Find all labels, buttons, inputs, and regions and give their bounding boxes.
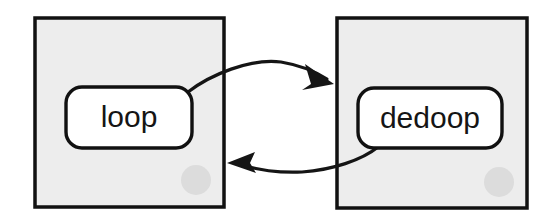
diagram-svg: loop dedoop [0, 0, 549, 224]
node-dedoop-label: dedoop [380, 101, 480, 134]
node-loop[interactable]: loop [66, 87, 192, 148]
node-loop-label: loop [101, 100, 158, 133]
edge-loop-to-dedoop-arrowhead-icon [302, 64, 334, 90]
diagram-canvas: loop dedoop [0, 0, 549, 224]
edge-dedoop-to-loop-arrowhead-icon [227, 152, 256, 173]
loop-container-badge-icon [181, 165, 211, 195]
dedoop-container-badge-icon [484, 167, 514, 197]
node-dedoop[interactable]: dedoop [358, 88, 502, 148]
